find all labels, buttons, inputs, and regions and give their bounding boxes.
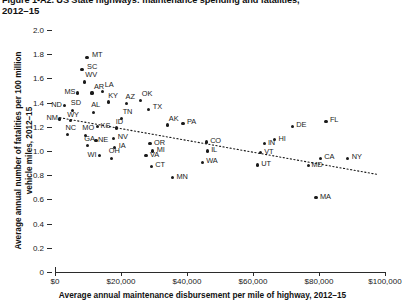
point-label-ks: KS (101, 121, 111, 130)
point-label-pa: PA (187, 117, 196, 126)
y-tick-mark (47, 54, 52, 55)
x-tick-mark (121, 272, 122, 276)
y-tick-label: 1.0 (20, 147, 44, 156)
y-tick-mark (47, 175, 52, 176)
point-label-wi: WI (88, 150, 97, 159)
y-tick-label: 2.0 (20, 26, 44, 35)
point-label-de: DE (296, 120, 306, 129)
point-label-la: LA (105, 80, 114, 89)
scatter-point-il (206, 149, 209, 152)
y-tick-mark (47, 224, 52, 225)
y-tick-mark (47, 127, 52, 128)
point-label-ak: AK (169, 114, 179, 123)
scatter-point-nv (112, 137, 115, 140)
scatter-point-id (115, 126, 118, 129)
point-label-ky: KY (108, 91, 118, 100)
scatter-point-hi (273, 138, 276, 141)
scatter-point-mn (171, 176, 174, 179)
point-label-md: MD (311, 160, 322, 169)
figure-title-line1: Figure 1-A2. US State highways: maintena… (2, 0, 403, 6)
x-axis-line (55, 272, 385, 273)
scatter-point-co (205, 140, 208, 143)
point-label-az: AZ (126, 92, 135, 101)
y-tick-label: 1.4 (20, 98, 44, 107)
scatter-point-tx (147, 108, 150, 111)
point-label-id: ID (116, 117, 123, 126)
point-label-ma: MA (320, 192, 331, 201)
scatter-point-wv (83, 80, 86, 83)
scatter-point-mt (85, 56, 88, 59)
point-label-wy: WY (67, 110, 79, 119)
y-tick-label: 0.2 (20, 243, 44, 252)
scatter-point-nc (66, 133, 69, 136)
y-tick-label: 0.4 (20, 219, 44, 228)
point-label-al: AL (91, 100, 100, 109)
x-tick-label: $20,000 (107, 277, 136, 286)
scatter-point-ny (346, 157, 349, 160)
x-tick-mark (253, 272, 254, 276)
scatter-point-sc (80, 68, 83, 71)
scatter-point-ut (256, 163, 259, 166)
y-tick-mark (47, 272, 52, 273)
point-label-tx: TX (153, 102, 162, 111)
x-tick-label: $80,000 (305, 277, 334, 286)
scatter-point-ca (319, 157, 322, 160)
y-tick-mark (47, 151, 52, 152)
point-label-wv: WV (85, 70, 97, 79)
point-label-ca: CA (324, 152, 334, 161)
point-label-sd: SD (71, 98, 81, 107)
point-label-il: IL (211, 145, 217, 154)
scatter-point-fl (324, 120, 327, 123)
point-label-ct: CT (155, 160, 165, 169)
x-tick-label: $60,000 (239, 277, 268, 286)
y-tick-label: 0 (20, 268, 44, 277)
point-label-ok: OK (142, 89, 152, 98)
scatter-point-ms (76, 91, 79, 94)
point-label-ne: NE (98, 135, 108, 144)
x-axis-label: Average annual maintenance disbursement … (0, 290, 405, 300)
scatter-point-in (263, 142, 266, 145)
y-tick-mark (47, 248, 52, 249)
y-tick-label: 1.8 (20, 50, 44, 59)
point-label-ms: MS (64, 87, 75, 96)
point-label-ut: UT (261, 159, 271, 168)
scatter-point-ga (86, 144, 89, 147)
point-label-tn: TN (123, 107, 133, 116)
point-label-mo: MO (82, 123, 94, 132)
scatter-point-de (291, 125, 294, 128)
point-label-vt: VT (264, 147, 273, 156)
point-label-mt: MT (92, 50, 102, 59)
point-label-mn: MN (176, 172, 187, 181)
y-tick-mark (47, 78, 52, 79)
point-label-ia: IA (119, 141, 126, 150)
y-tick-mark (47, 30, 52, 31)
x-tick-mark (187, 272, 188, 276)
x-tick-mark (55, 272, 56, 276)
scatter-point-nd (63, 104, 66, 107)
point-label-nv: NV (118, 132, 128, 141)
point-label-va: VA (150, 150, 159, 159)
point-label-nc: NC (66, 123, 76, 132)
scatter-point-va (144, 154, 147, 157)
scatter-point-ky (107, 100, 110, 103)
y-tick-label: 1.2 (20, 122, 44, 131)
scatter-point-oh (110, 157, 113, 160)
y-tick-label: 1.6 (20, 74, 44, 83)
point-label-nm: NM (47, 113, 58, 122)
x-tick-label: $100,000 (368, 277, 401, 286)
point-label-fl: FL (330, 115, 338, 124)
scatter-point-az (125, 102, 128, 105)
scatter-point-al (92, 111, 95, 114)
point-label-nd: ND (51, 100, 61, 109)
point-label-wa: WA (206, 156, 217, 165)
trend-line (0, 0, 405, 304)
scatter-point-wi (98, 154, 101, 157)
scatter-point-md (307, 164, 310, 167)
x-tick-mark (385, 272, 386, 276)
scatter-point-ks (96, 125, 99, 128)
x-tick-label: $0 (51, 277, 60, 286)
figure-root: Figure 1-A2. US State highways: maintena… (0, 0, 405, 304)
scatter-point-or (148, 142, 151, 145)
point-label-oh: OH (109, 146, 120, 155)
figure-title-line2: 2012–15 (2, 5, 39, 16)
